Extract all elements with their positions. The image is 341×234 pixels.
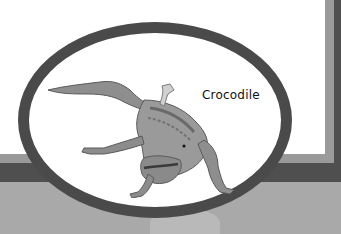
frame-right-light: [325, 0, 334, 163]
animal-label: Crocodile: [202, 88, 260, 102]
frame-right-dark: [334, 0, 341, 182]
